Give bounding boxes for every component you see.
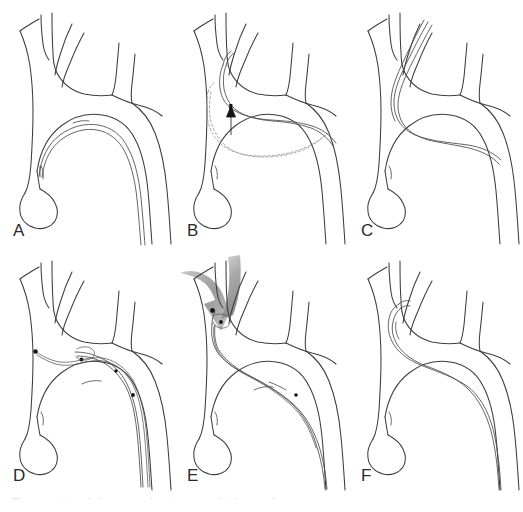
panel-f: F — [348, 249, 523, 494]
catheter-marker-e-2 — [294, 393, 298, 397]
radiopaque-marker-b — [229, 104, 232, 114]
panel-a: A — [0, 0, 174, 249]
guidewire-path-d — [36, 352, 150, 487]
catheter-path-a — [39, 124, 145, 245]
catheter-marker-d-3 — [131, 393, 135, 397]
aortic-arch-outline — [368, 261, 519, 490]
panel-label-e: E — [187, 467, 199, 484]
aortic-arch-outline — [368, 13, 519, 244]
panel-grid: A — [0, 0, 523, 494]
panel-b: B — [174, 0, 348, 249]
catheter-path-d — [75, 352, 143, 487]
figure-caption: Figure continues below — caption text cr… — [12, 495, 517, 507]
catheter-marker-d-2 — [114, 369, 117, 372]
wire-tip-marker-d — [33, 349, 38, 354]
catheter-path-e — [212, 312, 327, 489]
arch-inner-tick-d — [82, 381, 101, 384]
panel-d-illustration — [0, 249, 174, 494]
catheter-tip-marker-f — [396, 322, 399, 339]
wire-tip-marker-e — [210, 308, 215, 313]
caption-strip: Figure continues below — caption text cr… — [0, 494, 523, 512]
panel-c: C — [348, 0, 523, 249]
panel-f-illustration — [348, 249, 523, 494]
panel-e-illustration — [174, 249, 348, 494]
panel-label-a: A — [13, 222, 25, 239]
wire-loop-d — [76, 347, 94, 360]
catheter-marker-e-1 — [219, 320, 223, 324]
figure-root: A — [0, 0, 523, 512]
catheter-tip-marker-a — [73, 121, 89, 123]
panel-label-b: B — [187, 222, 199, 239]
panel-c-illustration — [348, 0, 523, 249]
aortic-arch-outline — [194, 13, 345, 244]
aortic-arch-outline — [20, 13, 171, 244]
panel-b-illustration — [174, 0, 348, 249]
panel-label-f: F — [361, 467, 372, 484]
force-arrow-e — [180, 255, 241, 331]
panel-label-c: C — [361, 222, 373, 239]
panel-label-d: D — [13, 467, 25, 484]
panel-a-illustration — [0, 0, 174, 249]
catheter-path-b — [220, 51, 336, 146]
panel-e: E — [174, 249, 348, 494]
panel-d: D — [0, 249, 174, 494]
